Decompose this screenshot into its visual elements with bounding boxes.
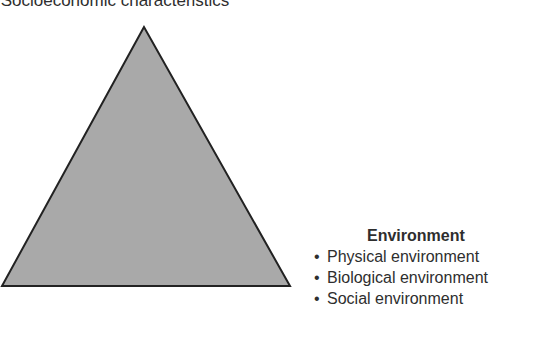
environment-list: •Physical environment •Biological enviro…	[314, 246, 488, 309]
environment-legend: Environment •Physical environment •Biolo…	[314, 226, 488, 309]
triangle-shape	[2, 27, 290, 286]
list-item: •Biological environment	[314, 267, 488, 288]
list-item: •Social environment	[314, 288, 488, 309]
environment-title: Environment	[367, 226, 488, 246]
list-item: •Physical environment	[314, 246, 488, 267]
